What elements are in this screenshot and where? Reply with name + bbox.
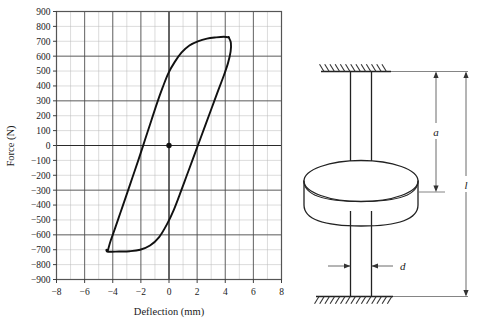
dimension-l-label: l	[464, 179, 467, 191]
y-axis-tick-labels: 9008007006005004003002001000−100−200−300…	[31, 7, 51, 285]
x-tick-label: −4	[108, 287, 118, 297]
rotor-shaft-diagram: a l d	[290, 0, 484, 323]
y-tick-label: 500	[36, 66, 51, 76]
x-axis-tick-labels: −8−6−4−202468	[51, 287, 284, 297]
x-tick-label: 4	[223, 287, 228, 297]
y-tick-label: 400	[36, 81, 51, 91]
hysteresis-plot-panel: 9008007006005004003002001000−100−200−300…	[0, 0, 290, 323]
x-tick-label: −2	[136, 287, 146, 297]
x-tick-label: −8	[51, 287, 61, 297]
hysteresis-chart: 9008007006005004003002001000−100−200−300…	[0, 0, 290, 323]
y-axis-title: Force (N)	[5, 125, 17, 167]
origin-point-marker	[166, 143, 171, 148]
disk-top-face	[304, 161, 418, 202]
dimension-d: d	[328, 260, 406, 272]
y-tick-label: −900	[31, 275, 51, 285]
y-tick-label: 700	[36, 37, 51, 47]
dimension-l: l	[459, 72, 473, 297]
x-tick-label: 2	[195, 287, 200, 297]
y-tick-label: −100	[31, 156, 51, 166]
x-tick-label: 8	[279, 287, 284, 297]
dimension-d-label: d	[400, 260, 406, 272]
figure-root: 9008007006005004003002001000−100−200−300…	[0, 0, 484, 323]
y-tick-label: 100	[36, 126, 51, 136]
x-tick-label: 6	[251, 287, 256, 297]
x-tick-label: 0	[167, 287, 172, 297]
y-tick-label: 800	[36, 22, 51, 32]
y-tick-label: −400	[31, 200, 51, 210]
dimension-a-label: a	[433, 126, 439, 138]
top-fixed-support	[320, 64, 391, 71]
y-tick-label: −700	[31, 245, 51, 255]
x-tick-label: −6	[80, 287, 90, 297]
y-tick-label: 200	[36, 111, 51, 121]
dimension-a: a	[429, 72, 443, 193]
y-tick-label: −200	[31, 171, 51, 181]
bottom-fixed-support	[315, 297, 393, 304]
y-tick-label: 900	[36, 7, 51, 17]
y-tick-label: −800	[31, 260, 51, 270]
top-support-hatching	[320, 64, 387, 71]
y-tick-label: −500	[31, 215, 51, 225]
y-tick-label: 0	[46, 141, 51, 151]
y-tick-label: 300	[36, 96, 51, 106]
rotor-shaft-diagram-panel: a l d	[290, 0, 484, 323]
y-tick-label: −300	[31, 186, 51, 196]
bottom-support-hatching	[315, 297, 392, 304]
x-axis-title: Deflection (mm)	[134, 306, 205, 318]
y-tick-label: −600	[31, 230, 51, 240]
disk	[304, 161, 418, 227]
y-tick-label: 600	[36, 52, 51, 62]
